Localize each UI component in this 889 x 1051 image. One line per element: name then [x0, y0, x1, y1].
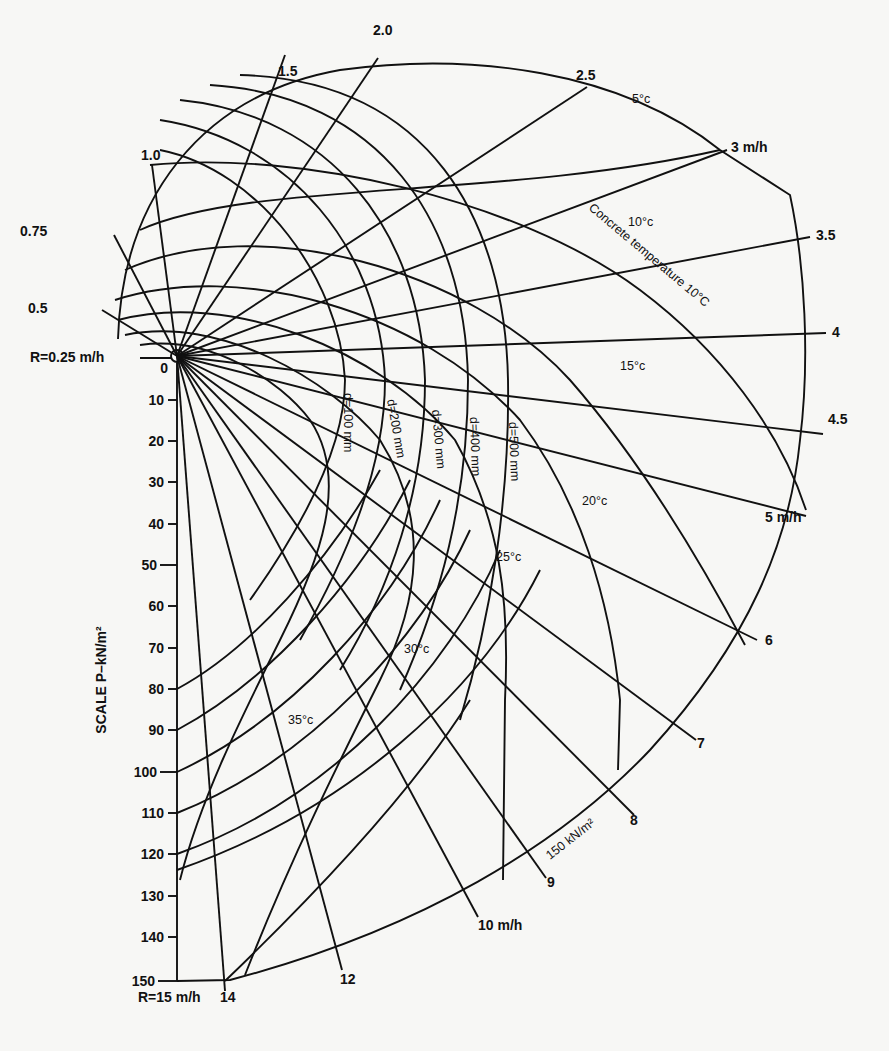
svg-text:3.5: 3.5: [816, 227, 836, 243]
limit-curve-label: 150 kN/m²: [543, 816, 597, 863]
svg-text:d=300 mm: d=300 mm: [429, 409, 448, 469]
svg-text:9: 9: [547, 874, 555, 890]
svg-text:70: 70: [148, 640, 164, 656]
svg-text:20: 20: [148, 433, 164, 449]
svg-text:120: 120: [141, 846, 165, 862]
svg-text:5°c: 5°c: [632, 92, 650, 106]
svg-text:12: 12: [340, 971, 356, 987]
svg-text:10°c: 10°c: [628, 215, 653, 229]
svg-text:4.5: 4.5: [828, 411, 848, 427]
svg-text:20°c: 20°c: [582, 494, 607, 508]
svg-text:14: 14: [220, 989, 236, 1005]
svg-text:1.5: 1.5: [278, 63, 298, 79]
svg-text:140: 140: [141, 929, 165, 945]
svg-text:5 m/h: 5 m/h: [765, 509, 802, 525]
svg-text:d=400 mm: d=400 mm: [467, 417, 483, 477]
pressure-arcs: [177, 470, 540, 981]
svg-text:d=200 mm: d=200 mm: [384, 398, 408, 459]
svg-text:30°c: 30°c: [404, 642, 429, 656]
svg-text:25°c: 25°c: [496, 550, 521, 564]
svg-text:15°c: 15°c: [620, 359, 645, 373]
svg-text:10: 10: [148, 392, 164, 408]
svg-text:50: 50: [141, 557, 157, 573]
formwork-pressure-nomogram: 0 10 20 30 40 50 60 70 80 90 100 110 120…: [0, 0, 889, 1051]
svg-text:90: 90: [148, 722, 164, 738]
scale-axis-title: SCALE P–kN/m²: [93, 626, 109, 734]
svg-text:150: 150: [132, 973, 156, 989]
svg-text:3 m/h: 3 m/h: [731, 139, 768, 155]
scale-tick-labels: 0 10 20 30 40 50 60 70 80 90 100 110 120…: [132, 360, 169, 989]
svg-text:4: 4: [832, 324, 840, 340]
svg-text:2.5: 2.5: [576, 67, 596, 83]
svg-text:0.75: 0.75: [20, 223, 47, 239]
svg-text:130: 130: [141, 888, 165, 904]
svg-text:40: 40: [148, 516, 164, 532]
svg-text:6: 6: [765, 632, 773, 648]
svg-text:110: 110: [141, 805, 164, 821]
svg-text:8: 8: [630, 812, 638, 828]
svg-text:80: 80: [148, 681, 164, 697]
svg-text:1.0: 1.0: [141, 147, 161, 163]
svg-text:0: 0: [160, 360, 168, 376]
svg-text:7: 7: [697, 735, 705, 751]
svg-text:0.5: 0.5: [28, 300, 48, 316]
svg-text:2.0: 2.0: [373, 22, 393, 38]
svg-text:R=15 m/h: R=15 m/h: [138, 989, 201, 1005]
svg-text:10 m/h: 10 m/h: [478, 917, 522, 933]
rate-lines: [102, 55, 826, 991]
temperature-curves: [115, 150, 806, 975]
svg-text:60: 60: [148, 598, 164, 614]
svg-text:d=500 mm: d=500 mm: [506, 422, 522, 482]
svg-text:100: 100: [134, 764, 158, 780]
svg-text:R=0.25 m/h: R=0.25 m/h: [30, 349, 104, 365]
svg-text:30: 30: [148, 474, 164, 490]
svg-text:d=100 mm: d=100 mm: [341, 393, 355, 452]
svg-text:35°c: 35°c: [288, 713, 313, 727]
